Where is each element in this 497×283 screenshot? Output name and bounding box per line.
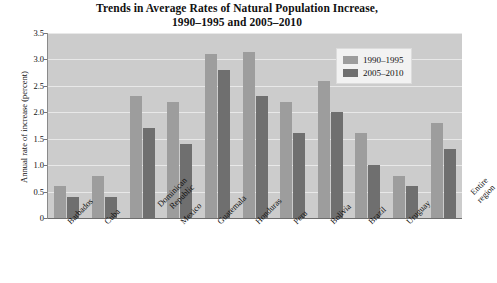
bar-group (280, 33, 305, 218)
legend-item[interactable]: 2005–2010 (343, 66, 404, 79)
y-axis-line (47, 33, 48, 219)
bar[interactable] (218, 70, 230, 218)
bar-group (54, 33, 79, 218)
y-axis-tick-label: 3.0 (4, 54, 44, 64)
chart-title: Trends in Average Rates of Natural Popul… (0, 2, 474, 29)
bar[interactable] (130, 96, 142, 218)
y-axis-tick-label: 2.5 (4, 81, 44, 91)
legend-swatch-icon (343, 69, 358, 77)
bar[interactable] (54, 186, 66, 218)
chart-title-line-2: 1990–1995 and 2005–2010 (0, 16, 474, 30)
bar-group (205, 33, 230, 218)
legend-swatch-icon (343, 56, 358, 64)
bar-group (130, 33, 155, 218)
x-axis-tick-labels: BarbadosCubaDominicanRepublicMexicoGuate… (0, 219, 474, 283)
bar[interactable] (92, 176, 104, 218)
legend-label: 2005–2010 (363, 68, 404, 78)
y-axis-tick-label: 1.5 (4, 134, 44, 144)
bar-group (92, 33, 117, 218)
y-axis-tick-label: 3.5 (4, 28, 44, 38)
bar[interactable] (205, 54, 217, 218)
bar[interactable] (393, 176, 405, 218)
bar[interactable] (256, 96, 268, 218)
legend-label: 1990–1995 (363, 55, 404, 65)
bar[interactable] (318, 81, 330, 218)
y-axis-tick-label: 1.0 (4, 160, 44, 170)
legend-item[interactable]: 1990–1995 (343, 53, 404, 66)
y-axis-tick-label: 0.5 (4, 187, 44, 197)
bar-group (243, 33, 268, 218)
bar[interactable] (331, 112, 343, 218)
bar-group (431, 33, 456, 218)
bar[interactable] (431, 123, 443, 218)
chart-title-line-1: Trends in Average Rates of Natural Popul… (0, 2, 474, 16)
bar[interactable] (243, 52, 255, 219)
bar[interactable] (355, 133, 367, 218)
bar[interactable] (293, 133, 305, 218)
chart-legend: 1990–1995 2005–2010 (336, 48, 412, 84)
y-axis-tick-label: 2.0 (4, 107, 44, 117)
